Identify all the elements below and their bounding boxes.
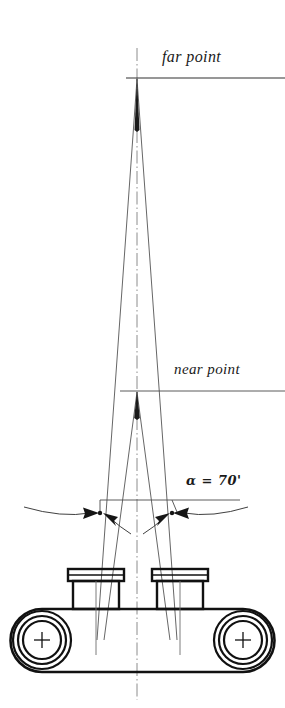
dimension-arc-outer-left (24, 507, 90, 515)
dimension-arc-outer-right (184, 507, 248, 515)
dimension-arrowhead-outer-left (83, 508, 99, 520)
angle-annotation-label: α = 70' (186, 473, 242, 488)
eyepiece-left (13, 611, 71, 669)
sight-line-far-left (97, 79, 137, 640)
eyepiece-right (214, 611, 272, 669)
far-point-label: far point (162, 48, 221, 66)
angle-vertex-left (98, 511, 102, 515)
angle-leader-line (172, 500, 177, 512)
angle-vertex-right (170, 511, 174, 515)
optical-convergence-diagram (0, 0, 285, 708)
sight-line-far-right (137, 79, 177, 640)
near-point-label: near point (174, 361, 240, 378)
